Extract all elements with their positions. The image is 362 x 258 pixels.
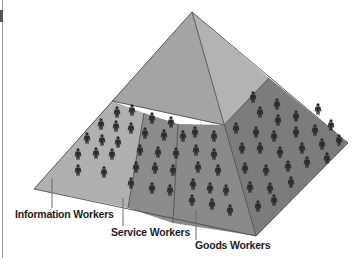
label-information-workers: Information Workers — [15, 208, 114, 220]
label-goods-workers: Goods Workers — [195, 239, 271, 251]
worker-pyramid-diagram: Information Workers Service Workers Good… — [0, 0, 362, 258]
label-service-workers: Service Workers — [111, 226, 190, 238]
worker-figure-icon — [315, 103, 322, 115]
information-workers-band — [34, 101, 144, 208]
